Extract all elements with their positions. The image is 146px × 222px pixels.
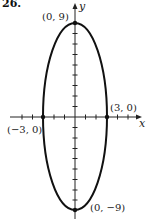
label-bottom-vertex: (0, −9) <box>90 202 125 213</box>
x-axis-label: x <box>139 117 146 130</box>
label-right-vertex: (3, 0) <box>110 102 137 113</box>
y-axis-label: y <box>78 0 86 13</box>
vertex-right <box>105 115 109 119</box>
ellipse-graph: 26. x y <box>0 0 146 222</box>
vertex-left <box>41 115 45 119</box>
label-top-vertex: (0, 9) <box>42 11 69 22</box>
problem-number: 26. <box>2 0 21 10</box>
vertex-top <box>73 21 77 25</box>
vertex-bottom <box>73 208 77 212</box>
y-axis-arrow-icon <box>73 3 78 9</box>
label-left-vertex: (−3, 0) <box>7 124 42 135</box>
